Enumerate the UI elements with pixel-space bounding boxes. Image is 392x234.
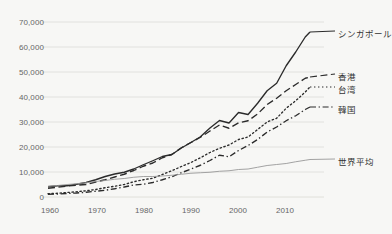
series-lines xyxy=(48,32,310,194)
legend-leader-シンガポール xyxy=(310,31,335,32)
gridlines xyxy=(42,22,324,197)
series-label-taiwan: 台湾 xyxy=(338,83,356,95)
y-tick-70000: 70,000 xyxy=(0,18,44,27)
y-tick-0: 0 xyxy=(0,193,44,202)
series-line-台湾 xyxy=(48,87,310,194)
y-tick-30000: 30,000 xyxy=(0,118,44,127)
legend-leader-香港 xyxy=(310,74,335,77)
series-label-singapore: シンガポール xyxy=(338,27,392,39)
y-tick-40000: 40,000 xyxy=(0,93,44,102)
legend-line-markers xyxy=(310,31,335,160)
y-tick-10000: 10,000 xyxy=(0,168,44,177)
series-label-world: 世界平均 xyxy=(338,155,374,167)
x-tick-1970: 1970 xyxy=(79,206,115,215)
series-line-シンガポール xyxy=(48,32,310,187)
series-line-世界平均 xyxy=(48,160,310,187)
x-tick-2000: 2000 xyxy=(220,206,256,215)
legend-leader-世界平均 xyxy=(310,159,335,160)
series-line-韓国 xyxy=(48,107,310,194)
y-tick-60000: 60,000 xyxy=(0,43,44,52)
series-label-hongkong: 香港 xyxy=(338,70,356,82)
x-tick-1960: 1960 xyxy=(32,206,68,215)
y-tick-20000: 20,000 xyxy=(0,143,44,152)
series-label-korea: 韓国 xyxy=(338,103,356,115)
x-tick-1980: 1980 xyxy=(126,206,162,215)
x-tick-2010: 2010 xyxy=(267,206,303,215)
x-tick-1990: 1990 xyxy=(173,206,209,215)
series-line-香港 xyxy=(48,77,310,188)
y-tick-50000: 50,000 xyxy=(0,68,44,77)
